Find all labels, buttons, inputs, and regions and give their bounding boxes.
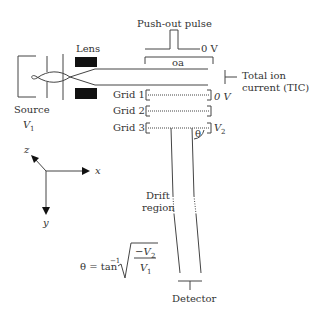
z-axis-line	[35, 159, 46, 171]
grid2-label: Grid 2	[113, 105, 145, 116]
tic-label-line1: Total ion	[242, 70, 286, 81]
ion-beam-upper	[70, 69, 208, 77]
ion-beam-lower	[70, 77, 208, 85]
theta-label: θ	[195, 128, 201, 139]
formula-denominator-sub: 1	[147, 268, 151, 276]
source-electrode	[18, 56, 36, 97]
formula-numerator-sub: 2	[151, 252, 155, 260]
formula-exponent: −1	[110, 257, 120, 265]
pulse-zero-volt-label: 0 V	[201, 43, 219, 54]
formula-numerator: −V	[135, 246, 152, 257]
oa-label: oa	[172, 57, 184, 68]
push-out-pulse-waveform	[145, 30, 200, 49]
grid1-voltage-label: 0 V	[214, 91, 233, 102]
drift-left-lower	[174, 214, 180, 273]
drift-right-lower	[196, 214, 201, 273]
lens-upper	[75, 57, 97, 67]
y-axis-label: y	[42, 217, 49, 228]
push-out-pulse-label: Push-out pulse	[137, 18, 212, 29]
drift-label-line1: Drift	[146, 190, 170, 201]
tic-label-line2: current (TIC)	[242, 82, 309, 93]
lens-lower	[75, 88, 97, 99]
source-voltage-sub: 1	[30, 125, 34, 133]
grid3-voltage-sub: 2	[221, 128, 225, 136]
drift-left-upper	[171, 128, 173, 196]
oa-tof-diagram: Push-out pulse 0 V oa Lens Source V 1 To…	[0, 0, 312, 315]
ion-beam-loop	[32, 72, 70, 82]
source-label: Source	[14, 104, 50, 115]
lens-label: Lens	[76, 43, 100, 54]
grid3-label: Grid 3	[113, 122, 145, 133]
drift-right-dashed	[194, 196, 196, 214]
x-axis-label: x	[95, 165, 101, 176]
z-axis-label: z	[23, 144, 30, 155]
drift-right-upper	[192, 128, 194, 196]
detector-label: Detector	[172, 293, 217, 304]
y-arrow-icon	[42, 207, 50, 215]
x-arrow-icon	[82, 167, 90, 175]
drift-label-line2: region	[142, 202, 175, 213]
grid1-label: Grid 1	[113, 89, 145, 100]
